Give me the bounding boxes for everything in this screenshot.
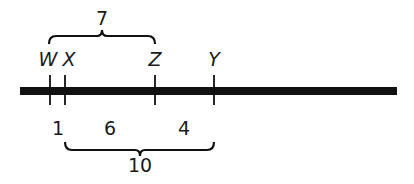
segment-wx-length: 1 (52, 117, 64, 139)
bottom-brace-value: 10 (128, 154, 152, 176)
point-label-x: X (61, 48, 76, 70)
segment-xz-length: 6 (104, 117, 116, 139)
top-brace (49, 30, 155, 44)
top-brace-value: 7 (96, 7, 108, 29)
point-label-w: W (39, 48, 59, 70)
number-line-diagram: 7 W X Z Y 1 6 4 10 (0, 0, 414, 184)
number-line (20, 87, 397, 95)
point-label-z: Z (147, 48, 162, 70)
point-label-y: Y (208, 48, 221, 70)
segment-zy-length: 4 (178, 117, 190, 139)
